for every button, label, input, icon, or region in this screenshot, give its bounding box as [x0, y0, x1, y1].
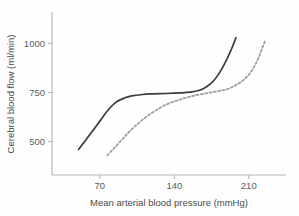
y-axis-label: Cerebral blood flow (ml/min): [5, 35, 16, 154]
y-tick-label: 1000: [24, 38, 45, 49]
x-axis-ticks: 70140210: [95, 175, 257, 191]
y-tick-label: 500: [29, 136, 45, 147]
x-tick-label: 140: [166, 180, 182, 191]
cerebral-autoregulation-chart: 5007501000 70140210 Mean arterial blood …: [0, 0, 299, 216]
x-tick-label: 70: [95, 180, 106, 191]
y-tick-label: 750: [29, 87, 45, 98]
x-axis-label: Mean arterial blood pressure (mmHg): [90, 197, 248, 208]
x-tick-label: 210: [241, 180, 257, 191]
series-shifted-autoregulation: [107, 41, 264, 155]
y-axis-ticks: 5007501000: [24, 38, 52, 147]
chart-figure: 5007501000 70140210 Mean arterial blood …: [0, 0, 299, 216]
series-normal-autoregulation: [79, 38, 236, 150]
